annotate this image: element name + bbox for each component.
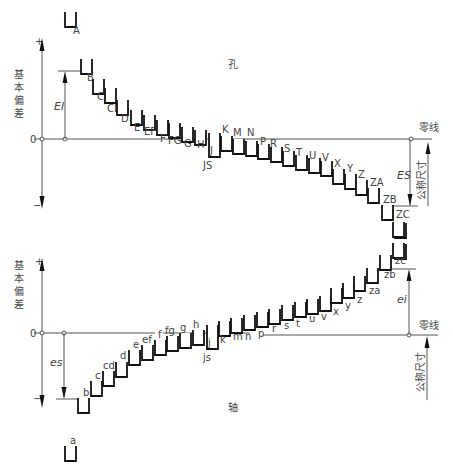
hole-band-label: J [209, 145, 213, 156]
fundamental-deviation-diagram: 孔 + 0 − 基本偏差 EI ES 零线 公称尺寸 ABCCDDEEFFFGG… [0, 0, 453, 474]
hole-section: 孔 + 0 − 基本偏差 EI ES 零线 公称尺寸 ABCCDDEEFFFGG… [14, 12, 439, 259]
hole-band-u: U [309, 150, 320, 173]
hole-band-v: V [321, 152, 332, 176]
shaft-band-zc-ext [393, 222, 404, 237]
hole-band-label: U [309, 150, 316, 161]
shaft-band-r: r [269, 309, 280, 334]
hole-band-x: X [333, 158, 344, 184]
shaft-band-v: v [320, 296, 331, 322]
hole-es-label: ES [397, 169, 411, 182]
shaft-band-c: c [91, 370, 102, 396]
shaft-band-label: c [95, 370, 101, 381]
hole-band-label: G [184, 138, 192, 149]
hole-band-label: X [334, 158, 341, 169]
hole-band-c: C [93, 79, 104, 102]
hole-nominal-size-arrow-icon [426, 142, 431, 154]
shaft-band-k: k [219, 321, 230, 345]
shaft-band-label: e [133, 339, 139, 350]
shaft-band-label: b [83, 387, 89, 398]
shaft-js-label: js [202, 352, 211, 363]
hole-band-label: N [247, 127, 254, 138]
hole-ei-label: EI [54, 100, 64, 113]
shaft-band-label: x [333, 306, 339, 317]
hole-title: 孔 [228, 59, 238, 70]
shaft-band-g: g [180, 322, 191, 348]
hole-zero-line-label: 零线 [419, 121, 439, 133]
shaft-band-za: za [367, 268, 380, 296]
hole-minus-sign: − [33, 200, 41, 211]
shaft-axis-origin [40, 331, 44, 335]
shaft-band-label: zc [395, 255, 406, 266]
hole-band-label: ZB [383, 194, 397, 205]
hole-band-j: J [209, 133, 220, 157]
hole-band-za: ZA [368, 177, 384, 203]
hole-es-arrow-icon [408, 194, 413, 206]
hole-band-m: M [233, 127, 244, 154]
shaft-band-t: t [295, 302, 306, 329]
shaft-ei-arrow-icon [407, 269, 412, 281]
shaft-nominal-size-arrow-icon [425, 336, 430, 348]
hole-ei-arrow-icon [63, 71, 68, 83]
hole-band-z: Z [356, 169, 367, 195]
hole-band-label: Z [358, 169, 365, 180]
hole-band-label: FG [168, 135, 182, 146]
shaft-band-n: n [244, 315, 255, 342]
hole-band-g: G [182, 127, 193, 149]
hole-band-label: Y [346, 163, 354, 174]
hole-band-label: K [222, 124, 229, 135]
shaft-section: 轴 + 0 − 基本偏差 es ei 零线 公称尺寸 abccddeefffgg… [14, 222, 439, 461]
hole-band-label: E [134, 122, 140, 133]
shaft-band-label: fg [165, 325, 175, 336]
shaft-band-label: m [233, 331, 243, 342]
hole-band-b: B [81, 59, 94, 83]
hole-band-n: N [246, 127, 257, 156]
shaft-title: 轴 [228, 401, 238, 413]
shaft-band-label: d [120, 350, 126, 361]
hole-band-label: EF [144, 126, 156, 137]
shaft-band-cd: cd [103, 360, 115, 386]
shaft-band-label: a [70, 435, 76, 446]
hole-band-s: S [283, 143, 294, 166]
shaft-band-label: z [357, 294, 362, 305]
hole-band-r: R [270, 138, 282, 162]
shaft-band-label: v [321, 311, 327, 322]
shaft-band-label: cd [103, 360, 115, 371]
shaft-axis-label: 基本偏差 [14, 259, 24, 310]
hole-band-k: K [221, 124, 232, 151]
hole-band-t: T [295, 147, 307, 170]
shaft-band-u: u [307, 299, 318, 324]
shaft-nominal-size-label: 公称尺寸 [414, 352, 426, 392]
shaft-band-label: u [309, 313, 315, 324]
shaft-band-y: y [343, 283, 354, 311]
hole-band-label: S [284, 143, 290, 154]
shaft-minus-sign: − [33, 393, 41, 404]
shaft-band-d: d [116, 350, 127, 377]
shaft-deviation-bands: abccddeefffgghjkmnprstuvxyzzazbzc [65, 222, 406, 461]
shaft-band-label: zb [384, 269, 396, 280]
hole-band-f: F [157, 120, 168, 144]
hole-band-fg: FG [168, 123, 182, 146]
hole-axis-label: 基本偏差 [14, 68, 24, 119]
shaft-ei-label: ei [397, 293, 407, 306]
shaft-band-z: z [354, 276, 365, 305]
shaft-band-j: j [207, 325, 218, 349]
shaft-band-label: n [245, 331, 251, 342]
hole-band-label: M [233, 127, 242, 138]
shaft-band-s: s [282, 305, 293, 331]
shaft-band-ef: ef [142, 334, 153, 360]
shaft-band-e: e [129, 339, 140, 365]
shaft-band-label: j [207, 337, 211, 348]
hole-nominal-size-label: 公称尺寸 [415, 160, 427, 200]
shaft-es-arrow-icon [62, 387, 67, 399]
shaft-zero-line-label: 零线 [419, 319, 439, 331]
hole-band-label: A [73, 25, 80, 36]
shaft-es-label: es [50, 356, 63, 369]
shaft-band-label: ef [142, 334, 152, 345]
shaft-band-fg: fg [165, 325, 178, 351]
shaft-band-m: m [231, 318, 243, 342]
hole-deviation-bands: ABCCDDEEFFFGGHJKMNPRSTUVXYZZAZBZC [65, 12, 410, 259]
hole-band-label: T [295, 147, 303, 158]
hole-band-e: E [131, 110, 142, 133]
hole-band-label: V [322, 152, 329, 163]
shaft-band-label: g [180, 322, 186, 333]
